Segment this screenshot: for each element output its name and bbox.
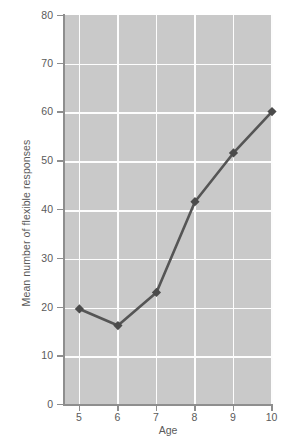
gridline-vertical xyxy=(117,15,119,405)
gridline-horizontal xyxy=(64,210,272,212)
gridline-horizontal xyxy=(64,64,272,66)
gridline-vertical xyxy=(79,15,81,405)
y-axis-tick xyxy=(57,15,63,16)
gridline-horizontal xyxy=(64,356,272,358)
gridline-horizontal xyxy=(64,259,272,261)
gridline-horizontal xyxy=(64,161,272,163)
x-tick-label: 10 xyxy=(260,412,284,423)
x-tick-label: 8 xyxy=(183,412,207,423)
y-axis-label: Mean number of flexible responses xyxy=(14,0,38,446)
gridline-vertical xyxy=(233,15,235,405)
x-tick-label: 9 xyxy=(221,412,245,423)
y-axis-tick xyxy=(57,307,63,308)
y-axis-tick xyxy=(57,160,63,161)
gridline-horizontal xyxy=(64,112,272,114)
y-axis-tick xyxy=(57,355,63,356)
y-axis-tick xyxy=(57,404,63,405)
gridline-horizontal xyxy=(64,308,272,310)
y-axis-line xyxy=(63,14,65,406)
y-axis-tick xyxy=(57,63,63,64)
gridline-vertical xyxy=(194,15,196,405)
gridline-vertical xyxy=(271,15,273,405)
x-tick-label: 5 xyxy=(67,412,91,423)
x-axis-line xyxy=(63,404,273,406)
y-axis-tick xyxy=(57,111,63,112)
y-axis-tick xyxy=(57,258,63,259)
y-axis-tick xyxy=(57,209,63,210)
x-axis-label: Age xyxy=(64,424,272,436)
x-tick-label: 7 xyxy=(144,412,168,423)
plot-area xyxy=(64,15,272,405)
gridline-vertical xyxy=(156,15,158,405)
chart-figure: 0 10 20 30 40 50 60 70 80 5 6 7 8 9 10 M… xyxy=(0,0,285,446)
x-tick-label: 6 xyxy=(106,412,130,423)
